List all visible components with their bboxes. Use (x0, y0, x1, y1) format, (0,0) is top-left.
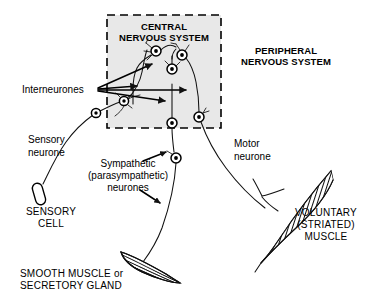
label-motor-neurone-line1: Motor (234, 138, 260, 149)
soma-sensory-ganglion (91, 108, 100, 117)
label-voluntary-muscle-line3: MUSCLE (305, 231, 348, 242)
soma-preganglionic (167, 118, 177, 128)
muscle-tendon-tail (255, 263, 261, 272)
label-sympathetic-line3: neurones (107, 182, 149, 193)
label-sympathetic-line2: (parasympathetic) (88, 170, 168, 181)
preganglionic-fiber-down (172, 128, 174, 152)
label-smooth-muscle-line1: SMOOTH MUSCLE or (20, 268, 124, 279)
label-sympathetic-line1: Sympathetic (100, 158, 155, 169)
soma-postganglionic (167, 151, 181, 163)
cns-label-line2: NERVOUS SYSTEM (119, 32, 209, 43)
label-smooth-muscle-line2: SECRETORY GLAND (20, 280, 122, 291)
soma-interneurone-right (177, 50, 187, 60)
motor-endplate-branch-3 (253, 179, 262, 196)
label-sensory-neurone-line1: Sensory (28, 134, 65, 145)
diagram-canvas: CENTRAL NERVOUS SYSTEM PERIPHERAL NERVOU… (0, 0, 371, 301)
pns-label-line1: PERIPHERAL (255, 45, 317, 56)
pns-label-line2: NERVOUS SYSTEM (241, 56, 331, 67)
label-interneurones: Interneurones (22, 84, 84, 95)
motor-endplate-branch-2 (262, 197, 278, 211)
cns-label-line1: CENTRAL (141, 21, 187, 32)
label-sensory-neurone-line2: neurone (28, 147, 65, 158)
smooth-muscle-organ (120, 252, 180, 285)
nervous-system-diagram: CENTRAL NERVOUS SYSTEM PERIPHERAL NERVOU… (0, 0, 371, 301)
label-voluntary-muscle-line2: (STRIATED) (297, 219, 354, 230)
soma-interneurone-mid (167, 64, 177, 74)
sensory-receptor-capsule (31, 182, 47, 206)
soma-interneurone-left (151, 46, 161, 56)
label-motor-neurone-line2: neurone (234, 151, 271, 162)
label-voluntary-muscle-line1: VOLUNTARY (295, 207, 357, 218)
motor-axon (201, 122, 265, 208)
motor-endplate-branch-1 (262, 189, 284, 196)
label-sensory-cell-line1: SENSORY (26, 206, 76, 217)
label-sensory-cell-line2: CELL (38, 218, 64, 229)
